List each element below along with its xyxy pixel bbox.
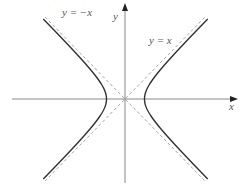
hyperbola-diagram: y = −x y = x y x xyxy=(0,0,251,186)
y-axis-label: y xyxy=(112,10,118,22)
asymptote-label-pos: y = x xyxy=(148,34,172,46)
asymptote-label-neg: y = −x xyxy=(61,6,92,18)
x-axis-label: x xyxy=(228,100,234,112)
